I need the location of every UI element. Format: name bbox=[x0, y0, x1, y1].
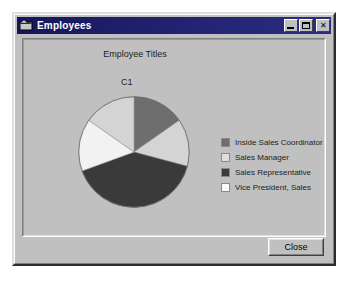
app-window-icon bbox=[20, 20, 33, 32]
close-icon: ✕ bbox=[317, 20, 329, 31]
legend-label: Vice President, Sales bbox=[235, 183, 311, 192]
legend-swatch bbox=[221, 153, 230, 162]
minimize-button[interactable] bbox=[284, 19, 298, 32]
maximize-icon bbox=[302, 22, 310, 29]
legend-label: Sales Representative bbox=[235, 168, 311, 177]
legend-item: Inside Sales Coordinator bbox=[221, 135, 327, 149]
close-button[interactable]: Close bbox=[268, 238, 324, 256]
chart-legend: Inside Sales CoordinatorSales ManagerSal… bbox=[221, 135, 327, 195]
title-bar[interactable]: Employees ✕ bbox=[17, 17, 331, 34]
chart-title: Employee Titles bbox=[23, 49, 247, 59]
minimize-icon bbox=[287, 27, 294, 29]
window-title: Employees bbox=[37, 20, 284, 31]
pie-chart bbox=[78, 96, 190, 208]
chart-panel: Employee Titles C1 Inside Sales Coordina… bbox=[22, 38, 326, 237]
legend-swatch bbox=[221, 168, 230, 177]
close-button-label: Close bbox=[284, 242, 307, 252]
close-window-button[interactable]: ✕ bbox=[316, 19, 330, 32]
legend-item: Sales Manager bbox=[221, 150, 327, 164]
legend-swatch bbox=[221, 138, 230, 147]
legend-label: Sales Manager bbox=[235, 153, 289, 162]
legend-item: Sales Representative bbox=[221, 165, 327, 179]
legend-item: Vice President, Sales bbox=[221, 180, 327, 194]
legend-swatch bbox=[221, 183, 230, 192]
pie-chart-svg bbox=[78, 96, 190, 208]
window-controls: ✕ bbox=[284, 19, 330, 32]
legend-label: Inside Sales Coordinator bbox=[235, 138, 323, 147]
employees-window: Employees ✕ Employee Titles C1 Inside Sa… bbox=[12, 12, 336, 266]
series-label: C1 bbox=[121, 77, 133, 87]
maximize-button[interactable] bbox=[299, 19, 313, 32]
